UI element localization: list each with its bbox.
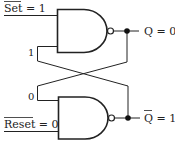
sr-latch-diagram: Set = 1 Reset = 0 Q = 0 Q = 1 1 0 (0, 0, 175, 143)
bottom-feedback-value: 0 (28, 91, 34, 102)
top-feedback-value: 1 (28, 47, 34, 58)
reset-label: Reset = 0 (4, 118, 59, 131)
qbar-output-label: Q = 1 (144, 112, 175, 125)
set-label: Set = 1 (4, 2, 46, 15)
bottom-inverter-bubble (109, 115, 115, 121)
top-nand-gate (58, 10, 114, 53)
bottom-nand-gate (59, 97, 115, 139)
q-junction-dot (124, 28, 130, 34)
qbar-junction-dot (125, 115, 131, 121)
top-inverter-bubble (108, 28, 114, 34)
q-output-label: Q = 0 (144, 25, 175, 38)
